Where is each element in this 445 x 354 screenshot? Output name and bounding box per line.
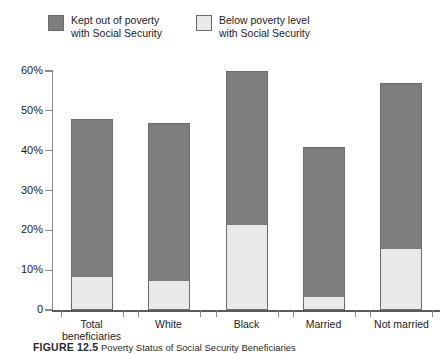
bar-married (303, 147, 345, 310)
x-axis-tick (355, 311, 356, 317)
x-axis-label-not_married: Not married (363, 318, 440, 330)
figure-caption: FIGURE 12.5 Poverty Status of Social Sec… (33, 341, 433, 354)
x-axis-tick (278, 311, 279, 317)
bar-segment-below-poverty-level (149, 281, 189, 309)
x-axis-tick (370, 311, 371, 317)
x-axis-label-married: Married (285, 318, 362, 330)
y-axis-tick (45, 150, 52, 151)
y-axis-tick (45, 270, 52, 271)
y-axis-tick (45, 190, 52, 191)
bar-segment-kept-out-of-poverty (149, 124, 189, 283)
y-axis-tick-label: 50% (21, 105, 43, 116)
bar-segment-kept-out-of-poverty (227, 72, 267, 227)
x-axis-label-black: Black (208, 318, 285, 330)
x-axis-tick (123, 311, 124, 317)
x-axis-label-total: Total beneficiaries (53, 318, 130, 343)
bar-white (148, 123, 190, 310)
y-axis-tick (45, 309, 52, 310)
bar-segment-below-poverty-level (381, 249, 421, 309)
y-axis-tick-label: 40% (21, 145, 43, 156)
y-axis-tick (45, 110, 52, 111)
x-axis-tick (138, 311, 139, 317)
x-axis-tick (61, 311, 62, 317)
figure-caption-text: Poverty Status of Social Security Benefi… (101, 342, 296, 353)
y-axis-tick-label: 30% (21, 185, 43, 196)
y-axis-tick-label: 10% (21, 264, 43, 275)
x-axis-tick (200, 311, 201, 317)
bar-total (71, 119, 113, 310)
bar-not_married (380, 83, 422, 310)
y-axis-tick (45, 230, 52, 231)
x-axis-tick (432, 311, 433, 317)
y-axis-tick-label: 60% (21, 65, 43, 76)
y-axis-tick-label: 0 (37, 304, 43, 315)
bar-segment-below-poverty-level (227, 225, 267, 309)
bar-segment-kept-out-of-poverty (304, 148, 344, 299)
bar-segment-kept-out-of-poverty (72, 120, 112, 279)
bar-segment-kept-out-of-poverty (381, 84, 421, 251)
y-axis-line (52, 70, 53, 311)
y-axis-tick-label: 20% (21, 224, 43, 235)
bar-segment-below-poverty-level (304, 297, 344, 309)
x-axis-line (52, 310, 440, 312)
x-axis-label-white: White (130, 318, 207, 330)
x-axis-tick (293, 311, 294, 317)
y-axis-tick (45, 70, 52, 71)
bar-black (226, 71, 268, 310)
bar-segment-below-poverty-level (72, 277, 112, 309)
x-axis-tick (216, 311, 217, 317)
figure-caption-label: FIGURE 12.5 (33, 341, 98, 353)
